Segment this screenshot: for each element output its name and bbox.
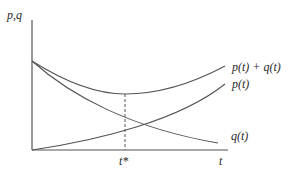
y-axis-label: p,q: [6, 8, 22, 22]
tradeoff-diagram: p,q t t* p(t) + q(t) p(t) q(t): [0, 0, 301, 173]
p-curve-label: p(t): [231, 77, 249, 91]
q-curve-label: q(t): [231, 129, 248, 143]
t-star-label: t*: [119, 154, 128, 168]
x-axis-label: t: [219, 154, 223, 168]
sum-curve-label: p(t) + q(t): [231, 60, 281, 74]
curve-sum: [32, 61, 225, 94]
